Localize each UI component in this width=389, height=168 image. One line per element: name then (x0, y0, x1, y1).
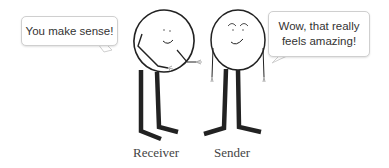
receiver-speech-text: You make sense! (26, 24, 114, 39)
receiver-label: Receiver (133, 145, 179, 161)
sender-figure (204, 10, 265, 134)
sender-speech-line2: feels amazing! (279, 34, 360, 49)
sender-speech-line1: Wow, that really (279, 19, 360, 34)
receiver-figure (128, 4, 202, 139)
sender-label: Sender (214, 145, 250, 161)
sender-speech-bubble: Wow, that really feels amazing! (268, 11, 370, 57)
receiver-speech-bubble: You make sense! (21, 16, 118, 46)
